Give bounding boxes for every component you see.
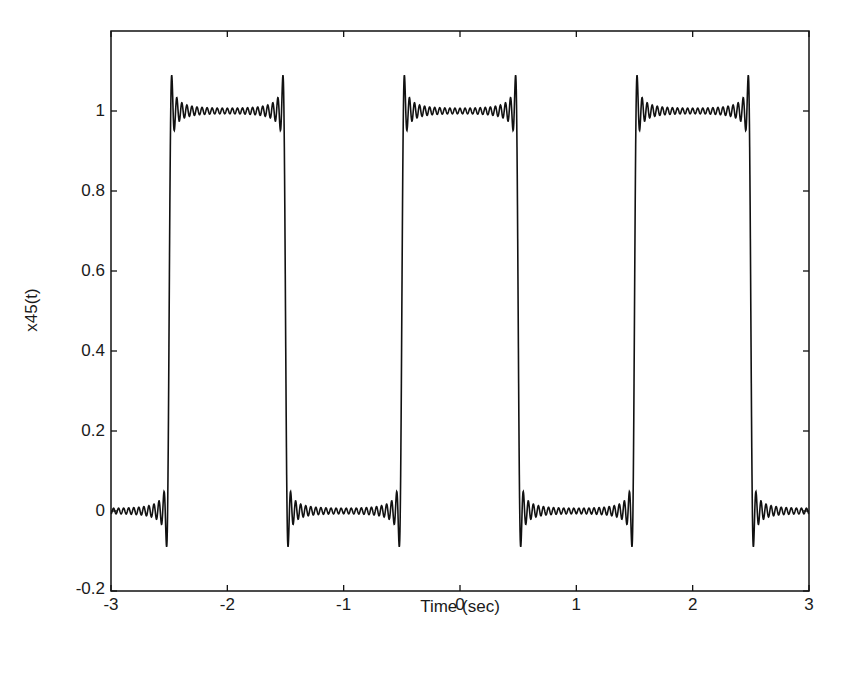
x-tick-label: -2 [207,596,247,613]
y-tick-label: 1 [45,102,105,119]
x-tick-label: -3 [91,596,131,613]
y-axis-label: x45(t) [22,270,42,350]
y-tick-label: -0.2 [45,580,105,597]
y-tick-label: 0 [45,502,105,519]
plot-area [0,0,848,674]
y-tick-label: 0.6 [45,262,105,279]
axis-ticks [111,31,809,591]
x-tick-label: 1 [556,596,596,613]
signal-line [111,75,809,547]
y-tick-label: 0.8 [45,182,105,199]
x-tick-label: 3 [789,596,829,613]
y-tick-label: 0.2 [45,422,105,439]
y-tick-label: 0.4 [45,342,105,359]
x-tick-label: 2 [673,596,713,613]
x-axis-label: Time (sec) [360,597,560,617]
x-tick-label: -1 [324,596,364,613]
axes-frame [111,31,809,591]
